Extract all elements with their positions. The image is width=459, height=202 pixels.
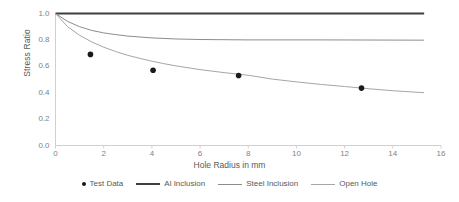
y-tick-label: 0.4 — [24, 88, 50, 97]
y-axis-label: Stress Ratio — [22, 8, 32, 98]
legend-item-test-data[interactable]: Test Data — [82, 180, 124, 188]
plot-area — [0, 0, 459, 202]
y-tick-label: 0.6 — [24, 61, 50, 70]
y-tick-label: 0.8 — [24, 35, 50, 44]
axes — [56, 14, 442, 146]
x-tick-label: 0 — [43, 149, 69, 158]
x-tick-label: 2 — [91, 149, 117, 158]
y-tick-label: 1.0 — [24, 9, 50, 18]
data-point-marker — [236, 73, 242, 79]
series-line — [56, 14, 425, 41]
legend-item-steel-inclusion[interactable]: Steel Inclusion — [218, 180, 298, 188]
legend-line-icon — [136, 183, 160, 185]
x-tick-label: 16 — [428, 149, 454, 158]
data-point-marker — [150, 67, 156, 73]
x-tick-label: 6 — [187, 149, 213, 158]
series-line — [56, 14, 425, 93]
x-tick-label: 8 — [235, 149, 261, 158]
x-axis-label: Hole Radius in mm — [0, 160, 459, 170]
legend-label: Open Hole — [339, 180, 377, 188]
chart-legend: Test DataAl InclusionSteel InclusionOpen… — [0, 180, 459, 188]
legend-dot-icon — [82, 182, 86, 186]
data-series — [56, 14, 425, 93]
x-tick-label: 4 — [139, 149, 165, 158]
legend-line-icon — [311, 184, 335, 185]
legend-item-al-inclusion[interactable]: Al Inclusion — [136, 180, 205, 188]
chart-container: Stress Ratio Hole Radius in mm 0.00.20.4… — [0, 0, 459, 202]
legend-line-icon — [218, 184, 242, 185]
data-point-marker — [88, 52, 94, 58]
y-tick-label: 0.2 — [24, 114, 50, 123]
x-tick-label: 10 — [283, 149, 309, 158]
x-tick-label: 12 — [332, 149, 358, 158]
legend-label: Test Data — [90, 180, 124, 188]
x-tick-label: 14 — [380, 149, 406, 158]
legend-label: Steel Inclusion — [246, 180, 298, 188]
legend-label: Al Inclusion — [164, 180, 205, 188]
legend-item-open-hole[interactable]: Open Hole — [311, 180, 377, 188]
data-point-marker — [359, 85, 365, 91]
